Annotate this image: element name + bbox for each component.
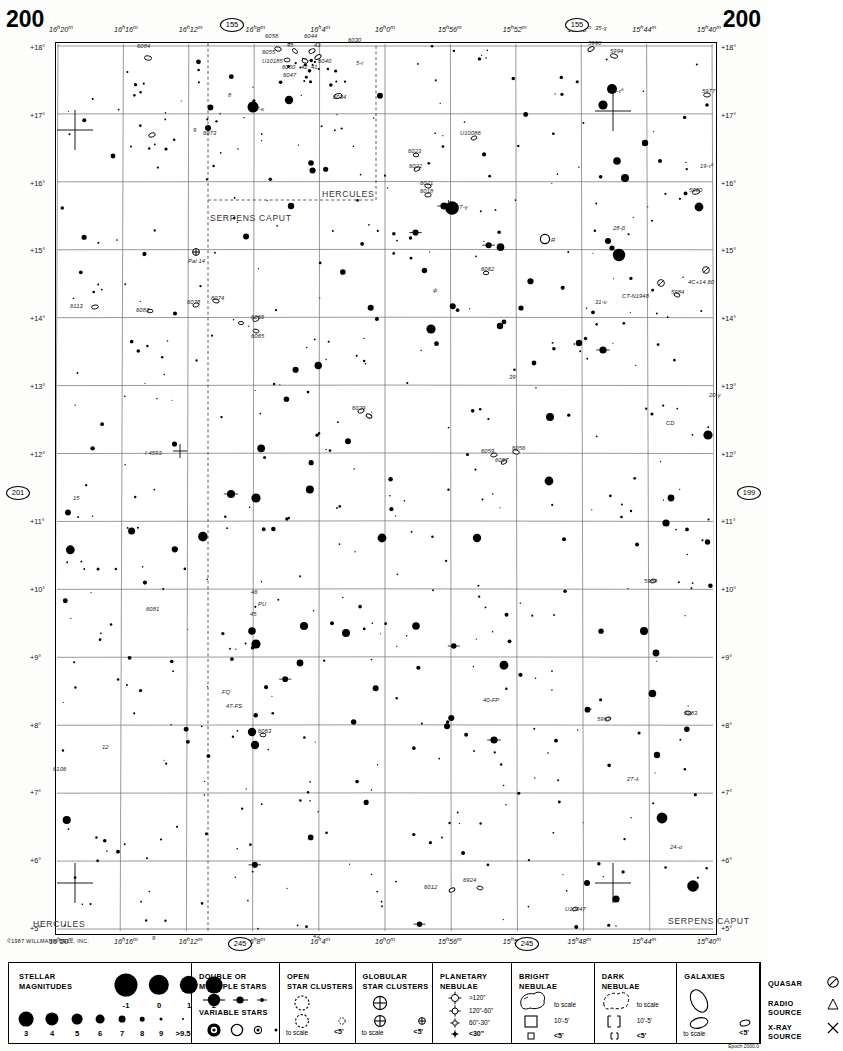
object-label: 5994: [610, 48, 623, 54]
dec-tick-left: +10°: [30, 585, 45, 594]
dec-tick-right: +9°: [721, 652, 732, 661]
object-label: 5984: [671, 289, 684, 295]
ra-tick-top: 16h20m: [49, 24, 73, 34]
magnitude-dot: [140, 1017, 145, 1022]
legend-galaxies: GALAXIES to scale <5': [677, 963, 760, 1043]
object-label: 6034: [333, 94, 346, 100]
ra-tick-bottom: 16h16m: [114, 936, 138, 946]
legend-bright-nebulae: BRIGHT NEBULAE to scale10'-5'<5': [512, 963, 595, 1043]
object-label: 6030: [348, 37, 361, 43]
object-label: 9: [152, 935, 155, 941]
special-symbols: [57, 91, 709, 903]
object-label: FQ: [222, 689, 230, 695]
magnitude-value: 7: [120, 1029, 124, 1038]
galaxy-symbols: [91, 43, 710, 911]
object-label: 28-β: [613, 225, 625, 231]
copyright-notice: ©1987 WILLMANN-BELL, INC.: [7, 938, 89, 944]
adjacent-chart-link[interactable]: 201: [6, 486, 30, 500]
constellation-name: SERPENS CAPUT: [668, 916, 750, 926]
adjacent-chart-link[interactable]: 245: [515, 937, 539, 951]
dec-tick-left: +12°: [30, 449, 45, 458]
ra-tick-bottom: 15h56m: [438, 936, 462, 946]
adjacent-chart-link[interactable]: 245: [228, 937, 252, 951]
magnitude-value: 9: [159, 1029, 163, 1038]
magnitude-value: 1: [187, 1001, 191, 1010]
object-label: 6057: [495, 457, 508, 463]
legend-double-variable: DOUBLE OR MULTIPLE STARS VARIABLE STARS: [192, 963, 280, 1043]
dec-tick-right: +7°: [721, 788, 732, 797]
object-label: 20-γ: [709, 392, 721, 398]
legend-row-label: <5': [554, 1032, 564, 1039]
object-label: 4C+14.60: [688, 279, 714, 285]
object-label: 6056: [512, 445, 525, 451]
legend-globular-clusters: GLOBULAR STAR CLUSTERS to scale <5': [356, 963, 433, 1043]
object-label: 6012: [424, 884, 437, 890]
adjacent-chart-link[interactable]: 199: [737, 486, 761, 500]
object-label: 6023: [408, 148, 421, 154]
ra-tick-bottom: 15h48m: [567, 936, 591, 946]
object-label: 6073: [203, 130, 216, 136]
epoch-footnote: Epoch 2000.0: [728, 1043, 759, 1049]
magnitude-dot: [182, 1018, 184, 1020]
magnitude-dot: [45, 1012, 58, 1025]
dec-tick-left: +11°: [30, 517, 45, 526]
object-label: 6022: [409, 163, 422, 169]
constellation-name: HERCULES: [322, 189, 374, 199]
legend-open-clusters: OPEN STAR CLUSTERS to scale <5': [280, 963, 356, 1043]
ra-tick-top: 16h8m: [245, 24, 265, 34]
ra-tick-bottom: 15h44m: [632, 936, 656, 946]
dec-tick-left: +7°: [30, 788, 41, 797]
legend-open-note-right: <5': [334, 1028, 344, 1035]
object-label: 6065: [251, 333, 264, 339]
object-label: 6924: [463, 877, 476, 883]
sky-map[interactable]: [55, 42, 717, 935]
magnitude-value: 4: [50, 1029, 54, 1038]
object-label: 26-τ⁸: [610, 88, 624, 94]
ra-tick-top: 15h40m: [697, 24, 721, 34]
object-label: 5980: [689, 187, 702, 193]
object-label: 6081: [146, 606, 159, 612]
object-label: 9: [193, 127, 196, 133]
object-label: Pal 14: [188, 258, 205, 264]
ra-tick-top: 16h0m: [375, 24, 395, 34]
object-label: 6058: [265, 33, 278, 39]
adjacent-chart-link[interactable]: 155: [220, 18, 244, 32]
dec-tick-right: +12°: [721, 449, 736, 458]
object-label: 27-λ: [627, 776, 639, 782]
dec-tick-right: +8°: [721, 720, 732, 729]
ra-tick-bottom: 16h12m: [179, 936, 203, 946]
object-label: 6055: [262, 49, 275, 55]
ra-tick-bottom: 16h0m: [375, 936, 395, 946]
legend-globular-note-right: <5': [414, 1028, 424, 1035]
object-label: U10086: [460, 130, 481, 136]
legend-row-label: 10'-5': [637, 1017, 652, 1024]
object-label: 6062: [481, 266, 494, 272]
legend-row-label: 60"-30": [469, 1019, 490, 1026]
constellation-name: SERPENS CAPUT: [210, 213, 292, 223]
dec-tick-right: +14°: [721, 314, 736, 323]
magnitude-value: 6: [98, 1029, 102, 1038]
object-label: 24-α: [670, 844, 682, 850]
dec-tick-left: +6°: [30, 856, 41, 865]
object-label: 45: [250, 611, 257, 617]
object-label: PU: [258, 601, 266, 607]
object-label: 12: [102, 744, 109, 750]
adjacent-chart-link[interactable]: 155: [565, 18, 589, 32]
legend-row-label: 120"-60": [469, 1007, 493, 1014]
legend-stellar-magnitudes: STELLAR MAGNITUDES -10123456789>9.5: [9, 963, 192, 1043]
ra-tick-top: 16h12m: [179, 24, 203, 34]
object-label: 6059: [481, 448, 494, 454]
object-label: 5-r: [356, 60, 363, 66]
ra-tick-top: 15h52m: [503, 24, 527, 34]
object-label: 42: [301, 64, 308, 70]
dec-tick-right: +18°: [721, 43, 736, 52]
legend-dark-nebulae: DARK NEBULAE to scale10'-5'<5': [595, 963, 678, 1043]
magnitude-dot: [119, 1016, 126, 1023]
object-label: 6078: [187, 299, 200, 305]
dec-tick-left: +13°: [30, 381, 45, 390]
object-label: 40-FP: [483, 697, 499, 703]
object-label: 43: [314, 42, 321, 48]
object-label: U10047: [565, 906, 586, 912]
dec-tick-left: +14°: [30, 314, 45, 323]
